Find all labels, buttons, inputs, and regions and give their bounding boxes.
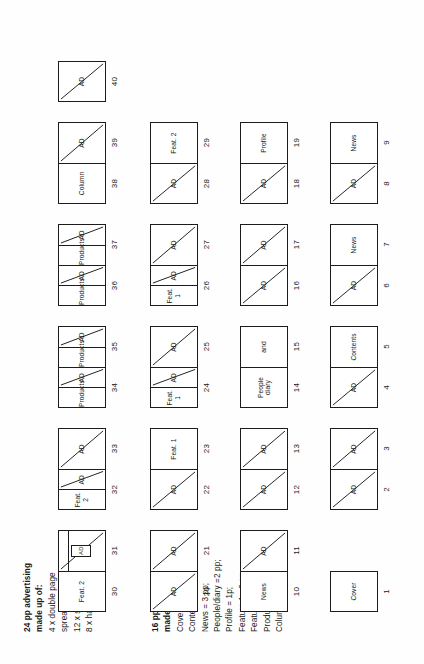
page-editorial-half[interactable]: Products [59, 286, 105, 306]
ad-label: AD [350, 470, 358, 509]
flatplan-page[interactable]: Feat. 1AD [150, 367, 198, 408]
flatplan-page[interactable]: AD [240, 469, 288, 510]
page-spread[interactable]: ProductsADProductsAD [58, 326, 106, 408]
page-spread[interactable]: ADFeat. 1 [150, 428, 198, 510]
flatplan-page[interactable]: News [330, 122, 378, 163]
flatplan-page[interactable]: and [240, 326, 288, 367]
page-spread[interactable]: Cover [330, 571, 378, 612]
page-number: 9 [382, 122, 391, 163]
flatplan-page[interactable]: ProductsAD [58, 326, 106, 367]
flatplan-page[interactable]: AD [240, 224, 288, 265]
flatplan-page[interactable]: AD [240, 265, 288, 306]
flatplan-page[interactable]: AD [240, 530, 288, 571]
flatplan-page[interactable]: AD [330, 265, 378, 306]
page-spread[interactable]: Feat. 1ADAD [150, 224, 198, 306]
page-spread[interactable]: ColumnAD [58, 122, 106, 204]
page-spread[interactable]: Feat. 2AD [58, 530, 106, 612]
page-editorial-half[interactable]: Products [59, 245, 105, 265]
page-number: 19 [292, 122, 301, 163]
page-spread[interactable]: ADAD [240, 428, 288, 510]
page-editorial-half[interactable]: Feat. 1 [151, 286, 197, 306]
page-spread[interactable]: ADAD [240, 224, 288, 306]
page-number: 13 [292, 428, 301, 469]
ad-label: AD [260, 531, 268, 571]
flatplan-page[interactable]: AD [58, 122, 106, 163]
flatplan-page[interactable]: AD [330, 428, 378, 469]
flatplan-page[interactable]: Feat. 2 [58, 571, 106, 612]
page-spread[interactable]: ADFeat. 2 [150, 122, 198, 204]
page-ad-half[interactable]: AD [151, 266, 197, 286]
flatplan-page[interactable]: AD [58, 61, 106, 102]
page-ad-half[interactable]: AD [59, 470, 105, 490]
page-number: 32 [110, 469, 119, 510]
page-label: News [350, 123, 358, 163]
page-label: Feat. 2 [74, 491, 90, 510]
flatplan-page[interactable]: Feat. 1 [150, 428, 198, 469]
page-spread[interactable]: AD [58, 61, 106, 102]
page-number: 28 [202, 163, 211, 204]
page-number: 26 [202, 265, 211, 306]
flatplan-page[interactable]: Profile [240, 122, 288, 163]
page-spread[interactable]: NewsAD [240, 530, 288, 612]
page-editorial-half[interactable]: Feat. 1 [151, 388, 197, 408]
page-spread[interactable]: ADContents [330, 326, 378, 408]
page-number: 23 [202, 428, 211, 469]
ad-label: AD [350, 164, 358, 203]
flatplan-page[interactable]: AD [150, 326, 198, 367]
page-spread[interactable]: ADProfile [240, 122, 288, 204]
flatplan-page[interactable]: AD [150, 163, 198, 204]
flatplan-page[interactable]: Feat. 2 [150, 122, 198, 163]
flatplan-page[interactable]: AD [150, 530, 198, 571]
flatplan-page[interactable]: AD [150, 469, 198, 510]
page-spread[interactable]: ADAD [150, 530, 198, 612]
flatplan-page[interactable]: AD [58, 530, 106, 571]
flatplan-page[interactable]: AD [330, 469, 378, 510]
page-spread[interactable]: ADNews [330, 224, 378, 306]
flatplan-page[interactable]: ProductsAD [58, 367, 106, 408]
page-label: Column [78, 164, 86, 203]
flatplan-page[interactable]: Feat. 1AD [150, 265, 198, 306]
advertising-notes-subheading: made up of: [34, 563, 46, 632]
flatplan-page[interactable]: AD [58, 428, 106, 469]
small-ad-box[interactable]: AD [71, 545, 91, 557]
ad-label: AD [78, 546, 85, 556]
page-ad-half[interactable]: AD [59, 368, 105, 388]
flatplan-page[interactable]: AD [330, 367, 378, 408]
flatplan-page[interactable]: AD [240, 428, 288, 469]
page-ad-half[interactable]: AD [59, 225, 105, 245]
page-editorial-half[interactable]: Products [59, 347, 105, 367]
page-number: 14 [292, 367, 301, 408]
flatplan-page[interactable]: ProductsAD [58, 224, 106, 265]
page-number: 7 [382, 224, 391, 265]
flatplan-page[interactable]: AD [330, 163, 378, 204]
ad-label: AD [78, 327, 86, 347]
page-spread[interactable]: Feat. 2ADAD [58, 428, 106, 510]
flatplan-page[interactable]: Peoplediary [240, 367, 288, 408]
ad-label: AD [78, 62, 86, 101]
flatplan-page[interactable]: AD [150, 571, 198, 612]
page-number: 11 [292, 530, 301, 571]
page-number: 3 [382, 428, 391, 469]
page-ad-half[interactable]: AD [151, 368, 197, 388]
page-ad-half[interactable]: AD [59, 327, 105, 347]
flatplan-page[interactable]: Column [58, 163, 106, 204]
page-editorial-half[interactable]: Feat. 2 [59, 490, 105, 510]
page-label: Feat. 2 [170, 123, 178, 163]
flatplan-page[interactable]: ProductsAD [58, 265, 106, 306]
page-spread[interactable]: ADAD [330, 428, 378, 510]
page-ad-half[interactable]: AD [59, 266, 105, 286]
page-spread[interactable]: Peoplediaryand [240, 326, 288, 408]
page-spread[interactable]: ProductsADProductsAD [58, 224, 106, 306]
page-spread[interactable]: Feat. 1ADAD [150, 326, 198, 408]
ad-label: AD [260, 470, 268, 509]
flatplan-page[interactable]: News [330, 224, 378, 265]
flatplan-page[interactable]: Contents [330, 326, 378, 367]
flatplan-page[interactable]: AD [150, 224, 198, 265]
flatplan-page[interactable]: Cover [330, 571, 378, 612]
flatplan-page[interactable]: AD [240, 163, 288, 204]
flatplan-page[interactable]: Feat. 2AD [58, 469, 106, 510]
page-number: 27 [202, 224, 211, 265]
page-spread[interactable]: ADNews [330, 122, 378, 204]
page-editorial-half[interactable]: Products [59, 388, 105, 408]
flatplan-page[interactable]: News [240, 571, 288, 612]
